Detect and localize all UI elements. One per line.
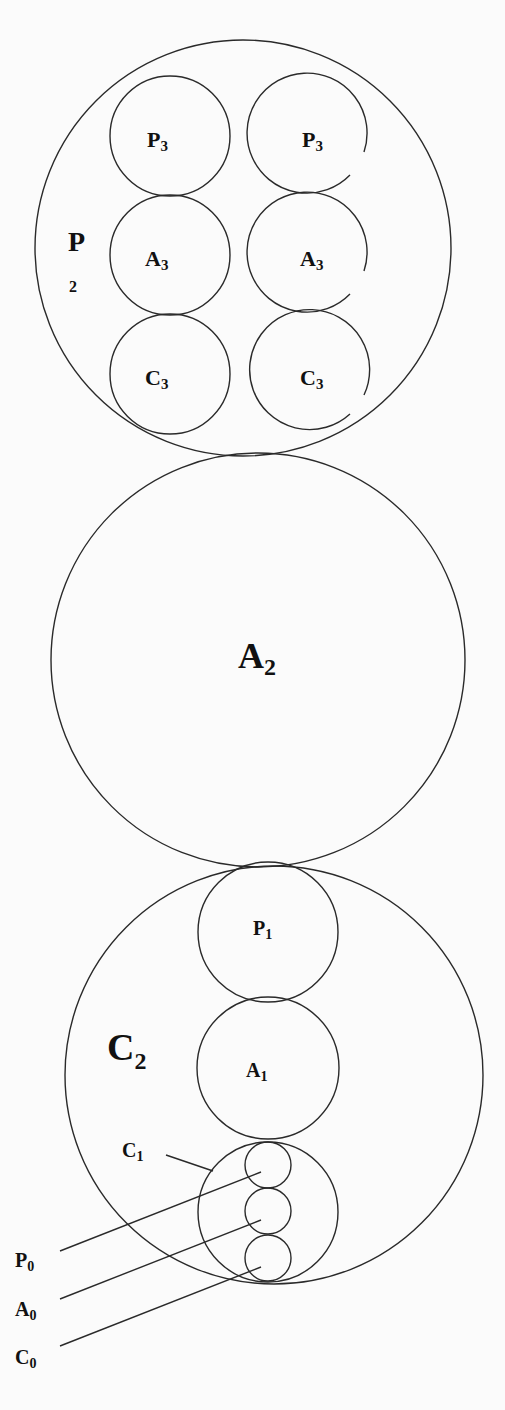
label-p3-left: P3	[147, 127, 168, 154]
label-a3-left: A3	[145, 246, 168, 273]
label-p2: P	[68, 226, 85, 257]
leader-c0	[60, 1267, 261, 1346]
leader-a0	[60, 1220, 261, 1299]
circle-p2	[35, 40, 451, 456]
leader-p0	[60, 1172, 261, 1251]
diagram-page: P3 P3 A3 A3 C3 C3 P 2 A2 C2 P1 A1 C1 P0 …	[0, 0, 505, 1410]
label-a1: A1	[246, 1059, 267, 1084]
circle-c3-left	[110, 314, 230, 434]
label-a2: A2	[238, 636, 276, 680]
label-c1: C1	[122, 1139, 143, 1164]
label-p1: P1	[253, 917, 272, 942]
circle-a1	[197, 997, 339, 1139]
label-c3-left: C3	[145, 365, 168, 392]
circle-c0	[245, 1235, 291, 1281]
leader-c1	[166, 1155, 213, 1171]
label-a3-right: A3	[300, 246, 323, 273]
circle-p0	[245, 1142, 291, 1188]
label-c2: C2	[107, 1026, 146, 1074]
circle-a3-left	[110, 195, 230, 315]
circle-c1	[198, 1142, 338, 1282]
circle-a0	[245, 1188, 291, 1234]
label-c0: C0	[15, 1346, 36, 1371]
label-p2-sub: 2	[69, 278, 77, 295]
label-p3-right: P3	[302, 127, 323, 154]
circle-p3-left	[110, 76, 230, 196]
nested-circles-diagram: P3 P3 A3 A3 C3 C3 P 2 A2 C2 P1 A1 C1 P0 …	[0, 0, 505, 1410]
label-c3-right: C3	[300, 365, 323, 392]
label-p0: P0	[15, 1249, 34, 1274]
circle-c2	[65, 866, 483, 1284]
label-a0: A0	[15, 1298, 36, 1323]
